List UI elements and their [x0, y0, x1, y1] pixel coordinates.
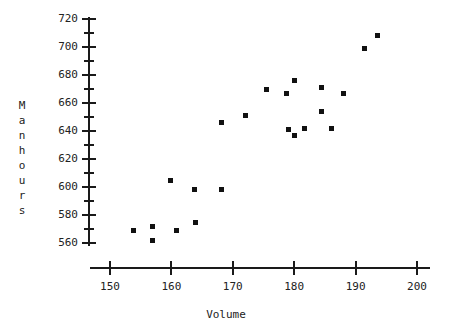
- x-axis-tick-label: 200: [397, 281, 437, 292]
- data-point: [243, 113, 248, 118]
- data-point: [341, 91, 346, 96]
- data-point: [319, 109, 324, 114]
- y-axis-tick-label-holder: 640: [0, 131, 78, 132]
- y-axis-tick: [82, 74, 96, 76]
- scatter-plot-figure: M a n h o u r s Volume 56058060062064066…: [0, 0, 452, 333]
- y-axis-tick-label: 640: [38, 125, 78, 136]
- y-axis-tick-label: 680: [38, 69, 78, 80]
- y-axis-tick: [82, 102, 96, 104]
- y-axis-minor-tick: [84, 88, 94, 90]
- y-axis-minor-tick: [84, 144, 94, 146]
- y-axis-tick: [82, 214, 96, 216]
- y-axis-tick: [82, 186, 96, 188]
- data-point: [192, 187, 197, 192]
- y-axis-tick-label: 700: [38, 41, 78, 52]
- x-axis-tick: [232, 261, 234, 275]
- y-axis-tick-label-holder: 600: [0, 187, 78, 188]
- data-point: [150, 224, 155, 229]
- x-axis-tick-label: 190: [336, 281, 376, 292]
- x-axis-tick: [293, 261, 295, 275]
- y-axis-tick-label-holder: 560: [0, 243, 78, 244]
- x-axis-tick-label: 180: [274, 281, 314, 292]
- y-axis-tick-label: 600: [38, 181, 78, 192]
- y-axis-tick-label: 720: [38, 13, 78, 24]
- x-axis-tick: [355, 261, 357, 275]
- y-axis-tick: [82, 130, 96, 132]
- data-point: [375, 33, 380, 38]
- y-axis-tick-label-holder: 680: [0, 75, 78, 76]
- data-point: [150, 238, 155, 243]
- data-point: [219, 120, 224, 125]
- x-axis-tick: [416, 261, 418, 275]
- y-axis-minor-tick: [84, 32, 94, 34]
- y-axis-minor-tick: [84, 200, 94, 202]
- y-axis-tick-label: 620: [38, 153, 78, 164]
- x-axis-tick: [170, 261, 172, 275]
- data-point: [284, 91, 289, 96]
- y-axis-tick-label: 560: [38, 237, 78, 248]
- y-axis-tick: [82, 46, 96, 48]
- data-point: [292, 78, 297, 83]
- data-point: [362, 46, 367, 51]
- plot-area: 5605806006206406606807007201501601701801…: [0, 0, 452, 333]
- data-point: [168, 178, 173, 183]
- data-point: [131, 228, 136, 233]
- x-axis-tick-label: 170: [213, 281, 253, 292]
- data-point: [319, 85, 324, 90]
- data-point: [219, 187, 224, 192]
- y-axis-tick-label-holder: 700: [0, 47, 78, 48]
- data-point: [302, 126, 307, 131]
- y-axis-minor-tick: [84, 228, 94, 230]
- data-point: [329, 126, 334, 131]
- y-axis-minor-tick: [84, 60, 94, 62]
- y-axis-tick-label-holder: 620: [0, 159, 78, 160]
- data-point: [292, 133, 297, 138]
- y-axis-minor-tick: [84, 172, 94, 174]
- y-axis-tick-label-holder: 580: [0, 215, 78, 216]
- y-axis-tick-label: 660: [38, 97, 78, 108]
- data-point: [286, 127, 291, 132]
- data-point: [193, 220, 198, 225]
- y-axis-tick: [82, 242, 96, 244]
- data-point: [174, 228, 179, 233]
- y-axis-tick: [82, 18, 96, 20]
- y-axis-tick-label-holder: 720: [0, 19, 78, 20]
- y-axis-minor-tick: [84, 116, 94, 118]
- y-axis-tick-label-holder: 660: [0, 103, 78, 104]
- data-point: [264, 87, 269, 92]
- x-axis-tick: [109, 261, 111, 275]
- y-axis-tick-label: 580: [38, 209, 78, 220]
- x-axis-tick-label: 150: [90, 281, 130, 292]
- x-axis-tick-label: 160: [151, 281, 191, 292]
- y-axis-tick: [82, 158, 96, 160]
